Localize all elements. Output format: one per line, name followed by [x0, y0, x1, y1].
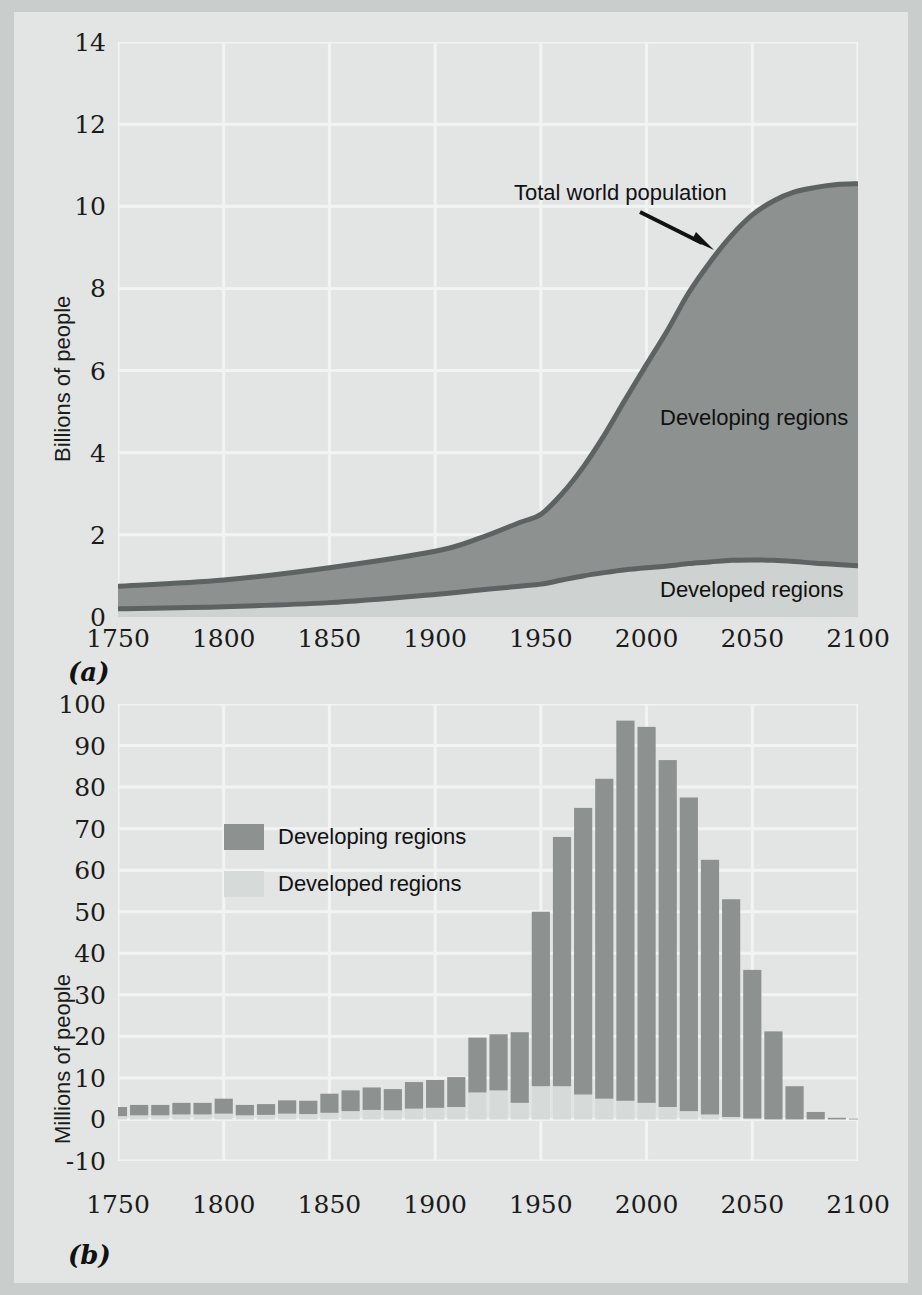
panel-a-ytick: 8 [54, 276, 106, 301]
annotation-total-world-population: Total world population [514, 180, 727, 206]
bar-developed-regions [489, 1090, 507, 1119]
bar-developed-regions [532, 1086, 550, 1119]
legend-label-developed-regions: Developed regions [278, 871, 461, 897]
bar-developing-regions [595, 779, 613, 1099]
bar-developing-regions [616, 721, 634, 1101]
panel-a-svg [118, 42, 858, 617]
bar-developed-regions [118, 1116, 127, 1119]
bar-developing-regions [807, 1112, 825, 1119]
panel-a-xtick: 1900 [390, 626, 480, 651]
panel-b-xtick: 2000 [602, 1192, 692, 1217]
bar-developed-regions [574, 1095, 592, 1120]
bar-developing-regions [215, 1099, 233, 1114]
panel-a: Billions of people 14121086420 175018001… [14, 12, 908, 672]
bar-developed-regions [172, 1114, 190, 1119]
bar-developing-regions [659, 760, 677, 1107]
panel-b-ytick: 40 [38, 941, 106, 966]
panel-a-label: (a) [68, 657, 109, 687]
panel-a-xtick: 2000 [602, 626, 692, 651]
bar-developing-regions [130, 1105, 148, 1115]
bar-developing-regions [405, 1082, 423, 1109]
bar-developing-regions [701, 860, 719, 1115]
bar-developed-regions [680, 1111, 698, 1119]
bar-developing-regions [320, 1094, 338, 1113]
panel-b-xtick: 1850 [284, 1192, 374, 1217]
panel-a-ytick: 14 [54, 30, 106, 55]
panel-a-ytick: 10 [54, 194, 106, 219]
bar-developed-regions [743, 1119, 761, 1120]
bar-developed-regions [236, 1115, 254, 1119]
bar-developing-regions [299, 1101, 317, 1114]
bar-developing-regions [785, 1086, 803, 1119]
bar-developing-regions [722, 899, 740, 1117]
panel-a-xtick: 2100 [813, 626, 903, 651]
bar-developed-regions [637, 1103, 655, 1120]
panel-a-ytick: 4 [54, 441, 106, 466]
bar-developed-regions [595, 1099, 613, 1120]
bar-developing-regions [511, 1032, 529, 1103]
bar-developed-regions [193, 1114, 211, 1119]
bar-developing-regions [278, 1100, 296, 1113]
bar-developed-regions [215, 1114, 233, 1120]
bar-developing-regions [680, 797, 698, 1111]
panel-b: Millions of people 100908070605040302010… [14, 684, 908, 1282]
panel-b-label: (b) [68, 1240, 111, 1270]
legend-swatch-developed-regions [224, 871, 264, 897]
bar-developing-regions [489, 1034, 507, 1090]
bar-developed-regions [363, 1110, 381, 1120]
panel-b-ytick: 90 [38, 734, 106, 759]
panel-a-ytick: 6 [54, 359, 106, 384]
bar-developed-regions [616, 1101, 634, 1120]
bar-developing-regions [341, 1090, 359, 1111]
bar-developing-regions [151, 1105, 169, 1115]
bar-developing-regions [426, 1080, 444, 1108]
bar-developing-regions [363, 1087, 381, 1109]
panel-b-xtick: 1750 [73, 1192, 163, 1217]
panel-b-xtick: 2100 [813, 1192, 903, 1217]
bar-developed-regions [341, 1111, 359, 1119]
panel-a-xtick: 1950 [496, 626, 586, 651]
bar-developed-regions [447, 1107, 465, 1119]
legend-item-developed-regions: Developed regions [224, 871, 461, 897]
label-developed-regions: Developed regions [660, 577, 843, 603]
bar-developed-regions [405, 1109, 423, 1120]
bar-developed-regions [130, 1115, 148, 1119]
bar-developing-regions [743, 970, 761, 1119]
bar-developed-regions [426, 1108, 444, 1120]
panel-b-ytick: -10 [38, 1149, 106, 1174]
bar-developed-regions [320, 1113, 338, 1120]
bar-developing-regions [764, 1031, 782, 1119]
panel-b-ytick: 30 [38, 983, 106, 1008]
panel-a-xtick: 1750 [73, 626, 163, 651]
legend-item-developing-regions: Developing regions [224, 824, 466, 850]
bar-developed-regions [701, 1114, 719, 1119]
bar-developed-regions [257, 1115, 275, 1120]
bar-developing-regions [828, 1118, 846, 1120]
bar-developing-regions [532, 912, 550, 1086]
panel-a-xtick: 1850 [284, 626, 374, 651]
panel-b-ytick: 10 [38, 1066, 106, 1091]
legend-label-developing-regions: Developing regions [278, 824, 466, 850]
panel-a-plot [118, 42, 858, 617]
panel-b-bar-group [118, 721, 858, 1120]
label-developing-regions: Developing regions [660, 405, 848, 431]
panel-b-ytick: 50 [38, 900, 106, 925]
panel-b-svg [118, 704, 858, 1161]
bar-developing-regions [193, 1103, 211, 1115]
bar-developing-regions [236, 1105, 254, 1115]
panel-b-xtick: 1800 [179, 1192, 269, 1217]
bar-developing-regions [468, 1038, 486, 1093]
panel-a-ytick: 2 [54, 523, 106, 548]
bar-developing-regions [257, 1104, 275, 1115]
panel-b-ytick: 20 [38, 1024, 106, 1049]
bar-developing-regions [118, 1107, 127, 1116]
panel-a-ytick: 12 [54, 112, 106, 137]
panel-b-ytick: 0 [38, 1107, 106, 1132]
bar-developing-regions [553, 837, 571, 1086]
panel-b-xtick: 2050 [707, 1192, 797, 1217]
bar-developed-regions [278, 1114, 296, 1120]
bar-developed-regions [553, 1086, 571, 1119]
panel-b-xtick: 1900 [390, 1192, 480, 1217]
figure-inner-panel: Billions of people 14121086420 175018001… [14, 12, 908, 1283]
bar-developed-regions [384, 1110, 402, 1119]
